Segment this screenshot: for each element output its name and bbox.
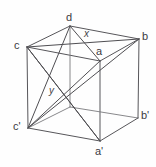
vertex-label-a: a (96, 46, 102, 57)
cube-svg-canvas (0, 0, 156, 167)
cube-figure: d c b a c' b' a' x y (0, 0, 156, 167)
cube-edge-b-b2 (138, 39, 139, 118)
point-label-x: x (84, 29, 89, 39)
vertex-label-b-prime: b' (141, 110, 149, 121)
vertex-label-d: d (66, 12, 72, 23)
cube-edge-c-c2 (27, 47, 28, 128)
vertex-label-c-prime: c' (13, 121, 21, 132)
cube-diagonal-c-b (27, 39, 139, 47)
vertex-label-c: c (14, 40, 20, 51)
cube-diagonal-a2-c (27, 47, 100, 141)
cube-edge-d2-b2 (70, 107, 138, 118)
cube-edge-d-c (27, 26, 70, 47)
cube-edge-c-a (27, 47, 100, 61)
cube-edge-d-b (70, 26, 139, 39)
cube-edge-a-b (100, 39, 139, 61)
cube-edge-a2-b2 (100, 118, 138, 141)
cube-diagonal-d-c2 (28, 26, 70, 128)
cube-diagonals-group (27, 26, 139, 141)
cube-edge-c2-a2 (28, 128, 100, 141)
vertex-label-b: b (142, 31, 148, 42)
cube-diagonal-c2-b (28, 39, 139, 128)
cube-edge-c2-d2 (28, 107, 70, 128)
vertex-label-a-prime: a' (95, 146, 103, 157)
point-label-y: y (49, 86, 54, 96)
